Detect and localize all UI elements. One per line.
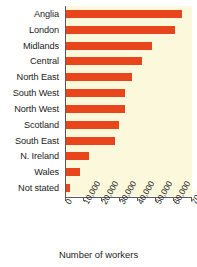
bar [66,137,115,145]
bar-row [66,6,192,22]
y-axis-line [65,6,66,197]
bar [66,26,175,34]
bars-layer [66,6,192,196]
category-label: Anglia [0,6,63,22]
bar [66,168,80,176]
category-label: North East [0,69,63,85]
bar-row [66,164,192,180]
bar-chart: Anglia London Midlands Central North Eas… [0,0,197,267]
category-label: South East [0,133,63,149]
category-label: Wales [0,164,63,180]
bar [66,73,132,81]
x-axis-title: Number of workers [0,249,197,260]
bar-row [66,53,192,69]
category-label: London [0,22,63,38]
bar [66,10,182,18]
bar-row [66,117,192,133]
bar-row [66,133,192,149]
bar-row [66,69,192,85]
category-label: Not stated [0,180,63,196]
bar-row [66,22,192,38]
category-label: N. Ireland [0,148,63,164]
bar-row [66,85,192,101]
bar-row [66,148,192,164]
category-label: South West [0,85,63,101]
category-axis: Anglia London Midlands Central North Eas… [0,6,63,196]
bar [66,184,70,192]
bar [66,89,125,97]
category-label: Midlands [0,38,63,54]
bar [66,152,89,160]
bar [66,42,152,50]
category-label: North West [0,101,63,117]
category-label: Central [0,53,63,69]
x-tick-label: 0 [63,197,74,206]
bar [66,121,119,129]
bar-row [66,101,192,117]
bar [66,105,125,113]
x-tick-labels: 010,00020,00030,00040,00050,00060,00070,… [0,201,197,245]
bar-row [66,38,192,54]
category-label: Scotland [0,117,63,133]
bar [66,57,142,65]
